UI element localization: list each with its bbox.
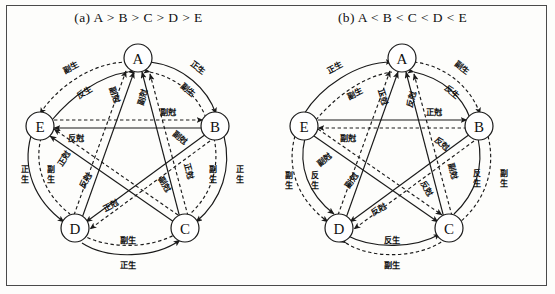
label-e-a-outer-b: 正生 [325, 59, 344, 75]
arc-a-b-inner-b [414, 72, 470, 118]
node-d-label: D [70, 221, 81, 237]
label-e-d-inner: 副生 [47, 165, 55, 184]
label-center-mid-b: 反尅 [432, 135, 452, 153]
label-d-c-outer: 正生 [120, 260, 136, 270]
label-e-lower-b: 副尅 [315, 150, 334, 169]
label-d-c-inner-b: 反生 [384, 235, 400, 245]
panel-b-diagram: A B C D E 正生 副生 副生 反生 正尅 反尅 正尅 副尅 副尅 副生 [264, 0, 541, 281]
panel-a: (a) A > B > C > D > E [0, 0, 277, 281]
label-a-b-outer: 正生 [188, 59, 207, 76]
node-d-label-b: D [334, 221, 345, 237]
node-c-label-b: C [444, 221, 454, 237]
arc-e-a-outer-b [304, 62, 392, 114]
figure-root: (a) A > B > C > D > E [0, 0, 555, 294]
label-b-c-outer-b: 副生 [500, 169, 508, 188]
label-center-right2: 正尅 [182, 162, 196, 181]
label-b-c-inner: 副生 [209, 165, 217, 184]
label-e-d-outer-b: 副生 [285, 171, 293, 190]
label-a-b-outer-b: 副生 [452, 59, 471, 76]
label-e-b-bottom-b: 副尅 [340, 133, 357, 143]
arc-a-b-inner [150, 72, 206, 118]
node-b-label: B [210, 119, 220, 135]
label-a-right-b: 反尅 [404, 89, 418, 108]
node-c-label: C [180, 221, 190, 237]
node-a-label-b: A [397, 51, 408, 67]
label-a-left-b: 正尅 [376, 88, 391, 107]
node-b-label-b: B [474, 119, 484, 135]
label-d-c-outer-b: 副生 [384, 260, 400, 270]
label-e-a-inner-b: 副生 [345, 85, 364, 101]
label-center-right: 副尅 [156, 175, 174, 195]
label-e-b-top: 副尅 [160, 107, 177, 117]
label-e-d-outer: 正生 [21, 165, 29, 184]
label-e-lower: 正尅 [55, 148, 73, 168]
label-d-a-chord: 副尅 [135, 87, 150, 106]
label-d-c-inner: 副生 [120, 235, 136, 245]
label-center-left-b: 副尅 [343, 170, 361, 190]
label-b-c-outer: 正生 [236, 165, 244, 184]
label-a-e-outer: 副生 [61, 59, 80, 75]
node-e-label: E [35, 119, 44, 135]
label-a-b-inner: 副生 [179, 81, 198, 99]
label-center-right-b: 反尅 [418, 179, 435, 199]
label-e-b-bottom: 反尅 [68, 133, 85, 143]
label-c-a-chord: 副尅 [107, 86, 122, 105]
label-center-left: 反尅 [77, 170, 94, 190]
label-e-d-inner-b: 反生 [311, 170, 319, 190]
label-center-left2-b: 反尅 [369, 201, 389, 218]
panel-a-diagram: A B C D E 副生 反生 正生 副生 副尅 反尅 副尅 副尅 正尅 正 [0, 0, 277, 281]
node-a-label: A [133, 51, 144, 67]
label-e-b-top-b: 正尅 [426, 107, 443, 117]
label-center-right2-b: 副尅 [446, 162, 460, 181]
panel-b: (b) A < B < C < D < E [264, 0, 541, 281]
node-e-label-b: E [299, 119, 308, 135]
label-center-mid: 副尅 [170, 129, 190, 147]
